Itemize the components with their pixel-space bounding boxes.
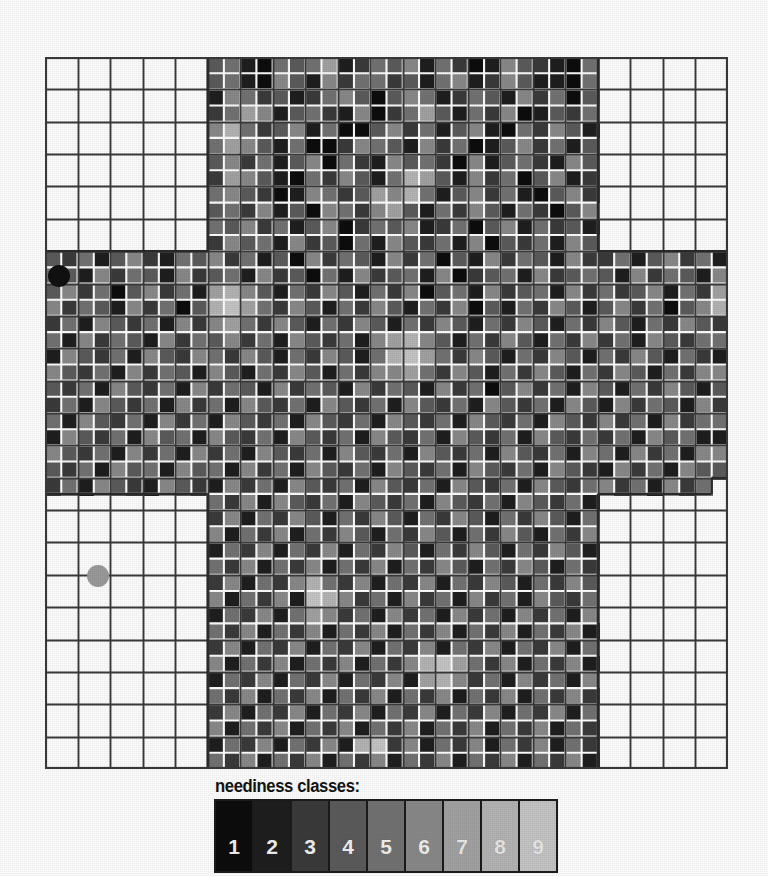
legend-swatch-4[interactable]: 4: [330, 801, 366, 871]
grid-map-canvas[interactable]: [45, 57, 728, 769]
legend-swatch-label: 2: [266, 836, 278, 871]
legend-swatch-label: 4: [342, 836, 354, 871]
legend-swatch-6[interactable]: 6: [406, 801, 442, 871]
legend-swatch-7[interactable]: 7: [444, 801, 480, 871]
legend-swatch-label: 8: [494, 836, 506, 871]
legend-swatch-5[interactable]: 5: [368, 801, 404, 871]
legend-swatch-label: 3: [304, 836, 316, 871]
legend-swatch-3[interactable]: 3: [292, 801, 328, 871]
neediness-grid-map[interactable]: [45, 57, 728, 769]
legend-swatch-2[interactable]: 2: [254, 801, 290, 871]
legend-swatch-label: 5: [380, 836, 392, 871]
legend-swatch-8[interactable]: 8: [482, 801, 518, 871]
legend-swatch-label: 9: [532, 836, 544, 871]
legend-swatch-9[interactable]: 9: [520, 801, 556, 871]
marker-light-icon[interactable]: [87, 565, 109, 587]
marker-dark-icon[interactable]: [48, 265, 70, 287]
legend: neediness classes: 123456789: [214, 776, 562, 873]
legend-swatch-label: 1: [228, 836, 240, 871]
legend-swatch-label: 7: [456, 836, 468, 871]
legend-title: neediness classes:: [215, 776, 545, 796]
legend-swatch-label: 6: [418, 836, 430, 871]
legend-swatch-1[interactable]: 1: [216, 801, 252, 871]
legend-swatch-strip: 123456789: [214, 799, 558, 873]
figure-container: neediness classes: 123456789: [0, 0, 768, 876]
